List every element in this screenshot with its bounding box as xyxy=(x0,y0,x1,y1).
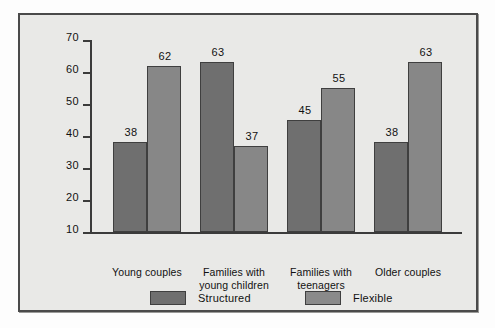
y-axis-tick-label: 60 xyxy=(66,63,79,75)
y-axis-tick-label: 20 xyxy=(66,191,79,203)
y-axis-tick-label: 70 xyxy=(66,31,79,43)
bar-group: 6337 xyxy=(200,40,268,232)
bar-group: 4555 xyxy=(287,40,355,232)
bar-flexible[interactable]: 62 xyxy=(147,66,181,232)
bar-group: 3863 xyxy=(374,40,442,232)
bar-value-label: 55 xyxy=(322,72,356,84)
y-axis-tick-label: 50 xyxy=(66,95,79,107)
chart-legend: Structured Flexible xyxy=(90,291,462,313)
bar-value-label: 38 xyxy=(375,126,409,138)
bar-value-label: 62 xyxy=(148,50,182,62)
bar-group: 3862 xyxy=(113,40,181,232)
legend-label-flexible: Flexible xyxy=(353,292,393,304)
chart-frame: 70605040302010 3862633745553863 Young co… xyxy=(18,13,478,312)
bar-structured[interactable]: 38 xyxy=(374,142,408,232)
y-axis-tick-mark xyxy=(83,72,90,74)
bar-structured[interactable]: 45 xyxy=(287,120,321,232)
y-axis-tick-label: 30 xyxy=(66,159,79,171)
y-axis-tick-mark xyxy=(83,168,90,170)
bar-flexible[interactable]: 55 xyxy=(321,88,355,232)
bar-value-label: 38 xyxy=(114,126,148,138)
bar-flexible[interactable]: 37 xyxy=(234,146,268,232)
legend-item-flexible[interactable]: Flexible xyxy=(305,291,393,305)
chart-figure: 70605040302010 3862633745553863 Young co… xyxy=(0,0,495,328)
y-axis-tick-label: 10 xyxy=(66,223,79,235)
x-axis-line xyxy=(90,232,462,234)
bar-value-label: 37 xyxy=(235,130,269,142)
legend-swatch-structured xyxy=(150,291,186,305)
y-axis-tick-mark xyxy=(83,200,90,202)
y-axis-tick-mark xyxy=(83,136,90,138)
bar-value-label: 63 xyxy=(201,46,235,58)
category-label: Older couples xyxy=(348,266,468,279)
bar-value-label: 63 xyxy=(409,46,443,58)
y-axis-tick-mark xyxy=(83,40,90,42)
y-axis-line xyxy=(90,40,92,234)
legend-label-structured: Structured xyxy=(198,292,251,304)
bar-structured[interactable]: 63 xyxy=(200,62,234,232)
y-axis-tick-mark xyxy=(83,232,90,234)
bar-value-label: 45 xyxy=(288,104,322,116)
plot-area: 70605040302010 3862633745553863 Young co… xyxy=(90,40,462,234)
y-axis-tick-label: 40 xyxy=(66,127,79,139)
bar-flexible[interactable]: 63 xyxy=(408,62,442,232)
y-axis-tick-mark xyxy=(83,104,90,106)
legend-item-structured[interactable]: Structured xyxy=(150,291,251,305)
bar-structured[interactable]: 38 xyxy=(113,142,147,232)
legend-swatch-flexible xyxy=(305,291,341,305)
